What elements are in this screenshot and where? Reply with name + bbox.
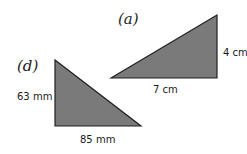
- triangle-a-base-label: 7 cm: [153, 84, 178, 95]
- triangle-a-height-label: 4 cm: [223, 47, 247, 58]
- diagram-canvas: (a) 4 cm 7 cm (d) 63 mm 85 mm: [0, 0, 247, 154]
- triangles-figure: (a) 4 cm 7 cm (d) 63 mm 85 mm: [0, 0, 247, 154]
- triangle-d-height-label: 63 mm: [17, 91, 52, 102]
- triangle-a-label: (a): [118, 10, 139, 28]
- triangle-d-label: (d): [17, 57, 38, 75]
- triangle-d-base-label: 85 mm: [80, 134, 115, 145]
- triangle-d: (d) 63 mm 85 mm: [17, 57, 141, 145]
- triangle-a: (a) 4 cm 7 cm: [111, 10, 247, 95]
